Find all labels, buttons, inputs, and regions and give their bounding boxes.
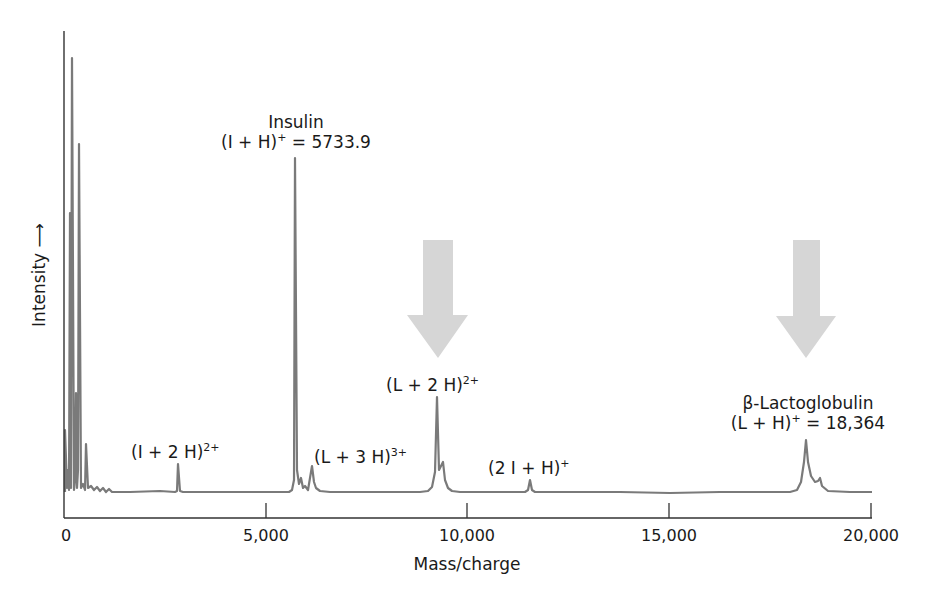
x-tick-label-0: 0 [61,526,71,545]
x-tick-label-10000: 10,000 [439,526,495,545]
l-3h-label: (L + 3 H)3+ [314,447,407,467]
lactoglobulin-formula: (L + H)+ = 18,364 [726,413,890,433]
insulin-formula: (I + H)+ = 5733.9 [218,132,374,152]
lactoglobulin-label: β-Lactoglobulin (L + H)+ = 18,364 [726,393,890,433]
x-tick-label-20000: 20,000 [843,526,899,545]
mass-spectrum-chart [0,0,928,594]
lactoglobulin-name: β-Lactoglobulin [726,393,890,413]
l-2h-label: (L + 2 H)2+ [386,375,479,395]
2i-h-label: (2 I + H)+ [488,458,570,478]
insulin-name: Insulin [218,112,374,132]
arrow-down-icon [407,240,468,358]
x-tick-label-5000: 5,000 [243,526,289,545]
i-2h-label: (I + 2 H)2+ [131,442,220,462]
insulin-label: Insulin (I + H)+ = 5733.9 [218,112,374,152]
arrow-down-icon [776,240,836,358]
x-axis-label: Mass/charge [413,554,520,574]
y-axis-label: Intensity ⟶ [29,223,49,327]
x-tick-label-15000: 15,000 [641,526,697,545]
x-ticks [266,503,871,518]
